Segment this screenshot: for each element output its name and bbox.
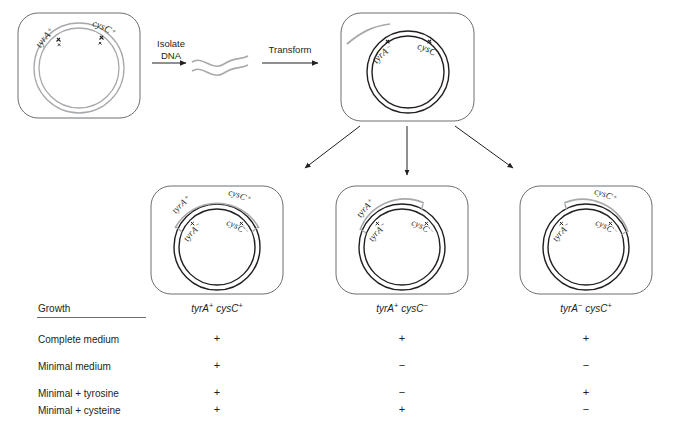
cell-r3-c2: − xyxy=(566,403,606,415)
cell-r3-c0: + xyxy=(197,403,237,415)
cell-r1-c1: − xyxy=(382,359,422,371)
cell-r0-c2: + xyxy=(566,332,606,344)
cell-r1-c0: + xyxy=(197,359,237,371)
growth-header-rule xyxy=(37,317,146,318)
cell-r0-c0: + xyxy=(197,332,237,344)
cell-r0-c1: + xyxy=(382,332,422,344)
cell-r1-c2: − xyxy=(566,359,606,371)
growth-table: Growth Complete medium Minimal medium Mi… xyxy=(0,0,676,431)
growth-table-header: Growth xyxy=(38,303,70,314)
cell-r2-c2: + xyxy=(566,386,606,398)
row-label-minimal-tyrosine: Minimal + tyrosine xyxy=(38,388,119,399)
cell-r2-c1: − xyxy=(382,386,422,398)
row-label-complete-medium: Complete medium xyxy=(38,334,119,345)
diagram-canvas: tyrA+ cysC+ tyrA− cysC− tyrA+ cysC+ tyrA… xyxy=(0,0,676,431)
cell-r2-c0: + xyxy=(197,386,237,398)
row-label-minimal-cysteine: Minimal + cysteine xyxy=(38,405,121,416)
cell-r3-c1: + xyxy=(382,403,422,415)
row-label-minimal-medium: Minimal medium xyxy=(38,361,111,372)
